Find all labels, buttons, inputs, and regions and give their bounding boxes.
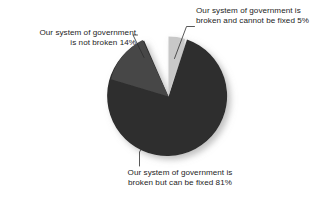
pie-label-broken-but-can-be-fixed: Our system of government is broken but c… <box>105 168 255 188</box>
pie-slices-group <box>107 37 227 157</box>
pie-chart-figure: Our system of government is broken and c… <box>0 0 334 198</box>
pie-label-not-broken: Our system of government is not broken 1… <box>4 28 136 48</box>
pie-label-broken-cannot-be-fixed: Our system of government is broken and c… <box>196 6 332 26</box>
